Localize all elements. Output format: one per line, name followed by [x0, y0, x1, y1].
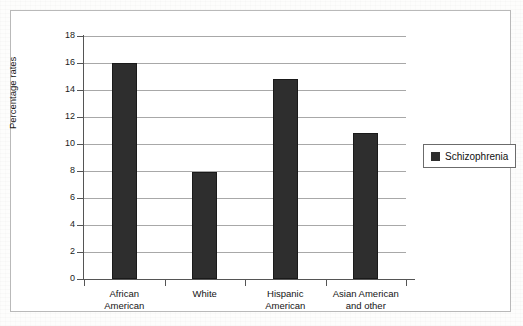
- x-category-label-line: American: [245, 300, 326, 312]
- legend-swatch-schizophrenia: [431, 152, 440, 161]
- x-tick-mark-end: [84, 280, 85, 286]
- bar: [273, 79, 298, 279]
- x-axis-line: [83, 279, 415, 280]
- x-category-label: AfricanAmerican: [84, 288, 165, 311]
- y-tick-mark: [77, 63, 84, 64]
- y-tick-label: 14: [49, 85, 75, 94]
- y-tick-label: 4: [49, 220, 75, 229]
- x-tick-mark: [326, 280, 327, 286]
- y-tick-mark: [77, 117, 84, 118]
- y-tick-label: 8: [49, 166, 75, 175]
- x-tick-mark: [165, 280, 166, 286]
- y-tick-mark: [77, 198, 84, 199]
- x-category-label-line: and other: [326, 300, 407, 312]
- y-tick-mark: [77, 252, 84, 253]
- y-tick-mark: [77, 225, 84, 226]
- y-tick-mark: [77, 144, 84, 145]
- y-tick-mark: [77, 90, 84, 91]
- y-tick-label: 10: [49, 139, 75, 148]
- y-tick-mark: [77, 36, 84, 37]
- x-category-label-line: American: [84, 300, 165, 312]
- bar: [353, 133, 378, 279]
- y-tick-label: 18: [49, 31, 75, 40]
- x-category-label-line: Hispanic: [245, 288, 326, 300]
- chart-frame: Percentage rates 024681012141618 African…: [10, 10, 511, 312]
- plot-area: [84, 36, 406, 279]
- x-category-label-line: African: [84, 288, 165, 300]
- x-tick-mark-end: [406, 280, 407, 286]
- figure-container: Percentage rates 024681012141618 African…: [0, 0, 523, 326]
- legend: Schizophrenia: [423, 144, 516, 168]
- x-category-label: HispanicAmerican: [245, 288, 326, 311]
- y-axis-title: Percentage rates: [7, 57, 18, 129]
- legend-label-schizophrenia: Schizophrenia: [445, 151, 508, 162]
- x-category-label-line: White: [165, 288, 246, 300]
- y-tick-mark: [77, 279, 84, 280]
- y-tick-label: 16: [49, 58, 75, 67]
- y-tick-mark: [77, 171, 84, 172]
- x-tick-mark: [245, 280, 246, 286]
- x-category-label-line: Asian American: [326, 288, 407, 300]
- y-tick-label: 0: [49, 274, 75, 283]
- y-tick-label: 2: [49, 247, 75, 256]
- y-tick-label: 12: [49, 112, 75, 121]
- y-tick-label: 6: [49, 193, 75, 202]
- x-category-label: White: [165, 288, 246, 300]
- bar: [192, 172, 217, 279]
- bar: [112, 63, 137, 279]
- x-category-label: Asian Americanand other: [326, 288, 407, 311]
